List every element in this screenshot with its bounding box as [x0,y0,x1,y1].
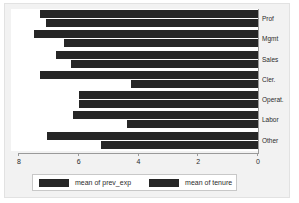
tick-label-2: 2 [196,157,200,166]
bar-tenure-mgmt [64,39,258,47]
category-label-labor: Labor [262,116,279,124]
bar-tenure-prof [46,19,258,27]
tick-label-0: 0 [256,157,260,166]
bar-prev-exp-cler [40,71,258,79]
tick-2 [197,153,198,156]
legend-label-tenure: mean of tenure [185,179,232,186]
bar-prev-exp-labor [73,111,258,119]
bar-rows [11,9,258,151]
bar-group-prof [11,10,258,30]
category-axis-labels: ProfMgmtSalesCler.Operat.LaborOther [259,9,290,151]
bar-group-mgmt [11,30,258,50]
category-label-sales: Sales [262,56,278,64]
bar-tenure-operat [79,100,258,108]
bar-group-labor [11,111,258,131]
bar-chart: ProfMgmtSalesCler.Operat.LaborOther 8642… [0,0,299,203]
category-label-mgmt: Mgmt [262,35,278,43]
bar-group-operat [11,91,258,111]
tick-8 [18,153,19,156]
bar-tenure-other [101,141,258,149]
bar-prev-exp-mgmt [34,30,258,38]
bar-group-other [11,132,258,152]
tick-label-6: 6 [77,157,81,166]
legend-entry-prev-exp: mean of prev_exp [39,175,131,190]
bar-tenure-labor [127,120,258,128]
value-axis-spine [258,9,259,153]
legend-entry-tenure: mean of tenure [149,175,232,190]
bar-tenure-sales [71,60,258,68]
tick-6 [78,153,79,156]
category-label-cler: Cler. [262,76,275,84]
chart-legend: mean of prev_exp mean of tenure [32,174,237,191]
plot-area [11,9,258,151]
value-axis-line [19,153,259,154]
tick-4 [138,153,139,156]
legend-swatch-prev-exp [39,179,69,187]
bar-group-cler [11,71,258,91]
category-label-operat: Operat. [262,96,284,104]
tick-label-8: 8 [17,157,21,166]
category-label-prof: Prof [262,15,274,23]
tick-0 [257,153,258,156]
bar-tenure-cler [131,80,258,88]
legend-label-prev-exp: mean of prev_exp [75,179,131,186]
bar-prev-exp-prof [40,10,258,18]
bar-group-sales [11,51,258,71]
bar-prev-exp-operat [79,91,258,99]
bar-prev-exp-sales [56,51,258,59]
category-label-other: Other [262,137,278,145]
bar-prev-exp-other [47,132,258,140]
legend-swatch-tenure [149,179,179,187]
tick-label-4: 4 [137,157,141,166]
